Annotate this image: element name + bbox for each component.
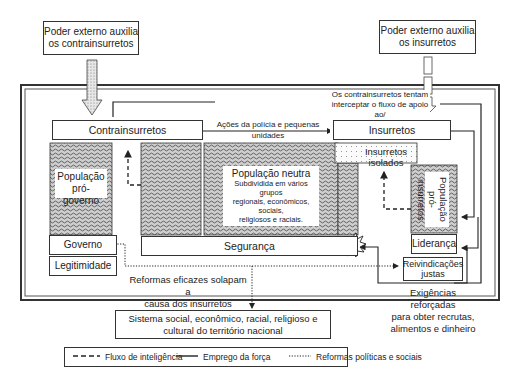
- just-grievances-box: Reivindicações justas: [403, 257, 463, 281]
- security-box: Segurança: [141, 236, 358, 256]
- government-box: Governo: [49, 235, 117, 255]
- external-support-counterinsurgents-arrow: [82, 60, 102, 115]
- reforms-note-line1: Reformas eficazes solapam a: [128, 274, 248, 298]
- counterinsurgents-box: Contrainsurretos: [52, 120, 203, 140]
- pro-government-line2: pró-governo: [55, 183, 107, 207]
- insurgents-to-leadership-line: [462, 217, 478, 248]
- interception-note-line1: Os contrainsurretos tentam: [330, 90, 430, 100]
- neutral-population-label: População neutra Subdividida em vários g…: [223, 166, 319, 226]
- neutral-population-desc1: Subdividida em vários grupos: [223, 179, 319, 197]
- neutral-population-right-block: [338, 163, 358, 235]
- reinforced-demands-note: Exigências reforçadas para obter recruta…: [388, 287, 478, 335]
- just-grievances-line2: justas: [421, 269, 445, 280]
- legend: Fluxo de inteligência Emprego da força R…: [64, 347, 348, 367]
- neutral-population-left-block: [141, 143, 201, 235]
- national-system-line2: cultural do território nacional: [163, 325, 282, 337]
- security-label: Segurança: [224, 240, 275, 252]
- external-support-insurgents-line2: os insurretos: [399, 37, 456, 49]
- isolated-insurgents-text: Insurretos isolados: [365, 146, 407, 168]
- counterinsurgents-label: Contrainsurretos: [89, 124, 167, 136]
- just-grievances-line1: Reivindicações: [403, 259, 464, 270]
- external-support-insurgents-box: Poder externo auxilia os insurretos: [379, 20, 476, 54]
- reinforced-demands-line3: alimentos e dinheiro: [388, 323, 478, 335]
- legitimacy-box: Legitimidade: [49, 256, 117, 276]
- external-support-counterinsurgents-line1: Poder externo auxilia: [44, 26, 138, 38]
- isolated-insurgents-label: Insurretos isolados: [355, 147, 417, 168]
- legitimacy-label: Legitimidade: [55, 260, 112, 272]
- leadership-box: Liderança: [411, 234, 457, 254]
- intel-flow-insurgents: [384, 172, 411, 209]
- legend-intel-label: Fluxo de inteligência: [105, 352, 183, 362]
- national-system-box: Sistema social, econômico, racial, relig…: [115, 310, 331, 339]
- reforms-note-line2: causa dos insurretos: [128, 298, 248, 310]
- neutral-population-desc2: regionais, econômicos, sociais,: [223, 197, 319, 215]
- legend-force-label: Emprego da força: [203, 352, 271, 362]
- reinforced-demands-line1: Exigências reforçadas: [388, 287, 478, 311]
- police-actions-label: Ações da polícia e pequenas unidades: [208, 120, 328, 141]
- external-support-insurgents-line1: Poder externo auxilia: [381, 25, 475, 37]
- pro-government-line1: População: [55, 171, 107, 183]
- force-line-top: [113, 102, 215, 117]
- insurgents-box: Insurretos: [333, 120, 451, 140]
- insurgents-label: Insurretos: [369, 124, 416, 136]
- reinforced-demands-line2: para obter recrutas,: [388, 311, 478, 323]
- government-label: Governo: [64, 239, 102, 251]
- legend-reforms-label: Reformas políticas e sociais: [316, 352, 422, 362]
- pro-insurgent-population-label: População pró-insurretos: [425, 172, 449, 227]
- neutral-population-desc3: religiosos e raciais.: [223, 215, 319, 224]
- police-actions-text: Ações da polícia e pequenas unidades: [217, 120, 320, 140]
- intel-flow-counterinsurgents: [128, 151, 141, 185]
- interception-note-line2: interceptar o fluxo de apoio ao/: [330, 100, 430, 120]
- pro-government-population-label: População pró-governo: [55, 169, 107, 198]
- pro-insurgent-line1: População: [438, 172, 449, 227]
- external-support-counterinsurgents-box: Poder externo auxilia os contrainsurreto…: [43, 21, 139, 55]
- national-system-line1: Sistema social, econômico, racial, relig…: [128, 313, 317, 325]
- neutral-population-title: População neutra: [223, 168, 319, 179]
- pro-insurgent-line2: pró-insurretos: [416, 172, 438, 227]
- leadership-label: Liderança: [412, 238, 456, 250]
- reforms-note: Reformas eficazes solapam a causa dos in…: [128, 274, 248, 310]
- external-support-counterinsurgents-line2: os contrainsurretos: [48, 38, 133, 50]
